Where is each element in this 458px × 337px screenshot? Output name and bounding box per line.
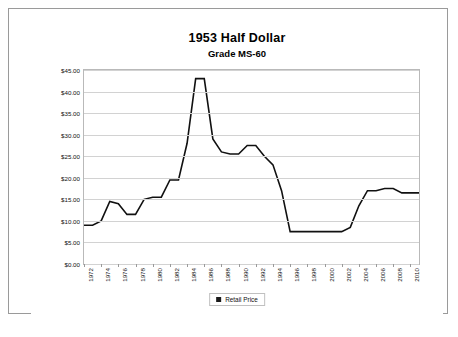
x-axis-tick (342, 264, 343, 267)
gridline (84, 135, 419, 136)
x-axis-tick (136, 264, 137, 267)
x-axis-tick-label: 1980 (156, 268, 163, 282)
gridline (84, 221, 419, 222)
x-axis-tick-label: 1978 (139, 268, 146, 282)
legend-swatch-icon (216, 297, 221, 302)
x-axis-tick (187, 264, 188, 267)
gridline (84, 242, 419, 243)
gridline (84, 92, 419, 93)
x-axis-tick (204, 264, 205, 267)
x-axis-tick (170, 264, 171, 267)
x-axis-tick (221, 264, 222, 267)
chart-card: 1953 Half Dollar Grade MS-60 $0.00$5.00$… (31, 23, 443, 315)
x-axis-tick (307, 264, 308, 267)
x-axis-tick-label: 1984 (190, 268, 197, 282)
x-axis-tick (118, 264, 119, 267)
x-axis-tick-label: 1986 (207, 268, 214, 282)
x-axis-tick (290, 264, 291, 267)
chart-legend: Retail Price (209, 293, 265, 306)
y-axis-tick-label: $40.00 (61, 88, 80, 95)
x-axis-tick (256, 264, 257, 267)
x-axis-tick-label: 2000 (328, 268, 335, 282)
y-axis-tick-label: $30.00 (61, 131, 80, 138)
x-axis-tick (153, 264, 154, 267)
x-axis-tick-label: 2002 (345, 268, 352, 282)
y-axis-tick-label: $15.00 (61, 196, 80, 203)
gridline (84, 70, 419, 71)
y-axis-tick-label: $20.00 (61, 174, 80, 181)
y-axis-tick-label: $10.00 (61, 217, 80, 224)
x-axis-tick-label: 1990 (242, 268, 249, 282)
y-axis-tick-label: $25.00 (61, 153, 80, 160)
x-axis-tick-label: 2004 (362, 268, 369, 282)
screenshot-page: 1953 Half Dollar Grade MS-60 $0.00$5.00$… (0, 0, 458, 337)
x-axis-tick-label: 1998 (310, 268, 317, 282)
x-axis-tick-label: 1982 (173, 268, 180, 282)
x-axis-tick (101, 264, 102, 267)
y-axis-tick-label: $45.00 (61, 67, 80, 74)
legend-label: Retail Price (225, 296, 258, 303)
gridline (84, 156, 419, 157)
gridline (84, 264, 419, 265)
x-axis-tick-label: 1972 (87, 268, 94, 282)
x-axis-tick (376, 264, 377, 267)
x-axis-tick (239, 264, 240, 267)
y-axis-tick-label: $0.00 (65, 261, 80, 268)
x-axis-tick-label: 1992 (259, 268, 266, 282)
plot-wrapper: $0.00$5.00$10.00$15.00$20.00$25.00$30.00… (31, 65, 443, 315)
x-axis-tick-label: 1976 (121, 268, 128, 282)
gridline (84, 113, 419, 114)
x-axis-tick (84, 264, 85, 267)
x-axis-tick-label: 1974 (104, 268, 111, 282)
x-axis-tick (273, 264, 274, 267)
x-axis-tick-label: 1988 (224, 268, 231, 282)
x-axis-tick-label: 1996 (293, 268, 300, 282)
x-axis-tick-label: 2006 (379, 268, 386, 282)
retail-price-line-series (84, 70, 419, 264)
gridline (84, 199, 419, 200)
chart-subtitle: Grade MS-60 (31, 48, 443, 59)
chart-title: 1953 Half Dollar (31, 31, 443, 45)
x-axis-tick-label: 1994 (276, 268, 283, 282)
gridline (84, 178, 419, 179)
x-axis-tick-label: 2008 (396, 268, 403, 282)
x-axis-tick (325, 264, 326, 267)
x-axis-tick (410, 264, 411, 267)
plot-area: $0.00$5.00$10.00$15.00$20.00$25.00$30.00… (83, 69, 420, 265)
y-axis-tick-label: $5.00 (65, 239, 80, 246)
y-axis-tick-label: $35.00 (61, 110, 80, 117)
x-axis-tick-label: 2010 (413, 268, 420, 282)
page-frame: 1953 Half Dollar Grade MS-60 $0.00$5.00$… (8, 8, 448, 314)
x-axis-tick (393, 264, 394, 267)
x-axis-tick (359, 264, 360, 267)
